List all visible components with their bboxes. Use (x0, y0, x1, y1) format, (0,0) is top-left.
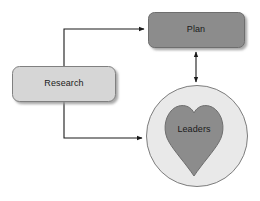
plan-label: Plan (187, 24, 205, 34)
flow-diagram: Leaders Plan Research (0, 0, 260, 201)
diagram-canvas: Leaders Plan Research (0, 0, 260, 201)
connector-research-to-leaders (64, 102, 142, 138)
research-label: Research (44, 78, 83, 88)
connector-research-to-plan (64, 29, 144, 66)
leaders-label: Leaders (177, 124, 211, 134)
